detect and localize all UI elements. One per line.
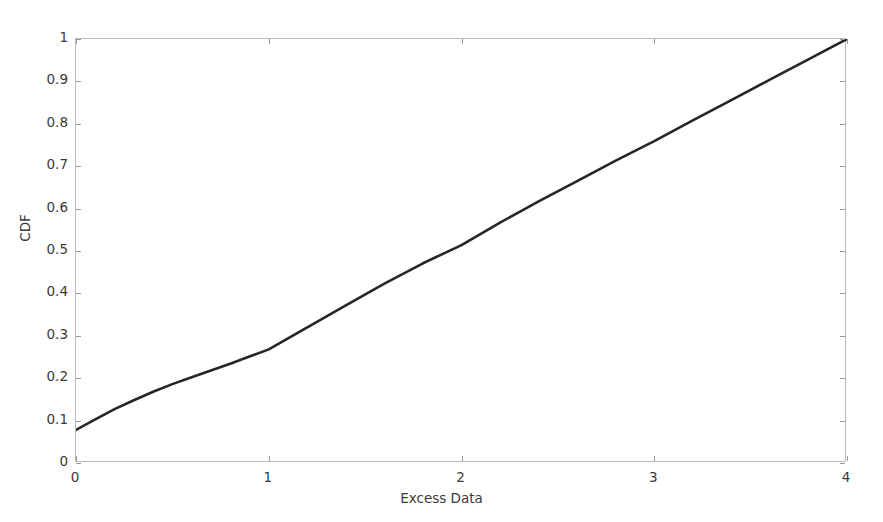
y-tick-mark [840,293,845,294]
x-tick-mark [847,456,848,461]
x-tick-mark [269,456,270,461]
y-tick-label: 0.9 [20,74,68,88]
y-tick-mark [840,336,845,337]
x-tick-mark [462,456,463,461]
x-tick-mark [847,39,848,44]
y-tick-mark [76,378,81,379]
cdf-curve-line [76,39,847,430]
plot-area [75,38,846,462]
y-tick-mark [76,336,81,337]
x-tick-label: 3 [649,471,658,485]
y-tick-mark [76,209,81,210]
cdf-line-chart [76,39,847,463]
y-tick-label: 0.4 [20,286,68,300]
y-tick-label: 1 [20,31,68,45]
y-tick-label: 0.7 [20,158,68,172]
x-axis-title: Excess Data [0,492,883,506]
x-tick-label: 4 [842,471,851,485]
y-tick-mark [76,293,81,294]
y-tick-label: 0.5 [20,243,68,257]
y-tick-mark [76,421,81,422]
x-tick-label: 0 [71,471,80,485]
x-tick-label: 1 [263,471,272,485]
x-tick-mark [462,39,463,44]
y-tick-mark [840,39,845,40]
y-tick-mark [76,124,81,125]
y-tick-mark [76,463,81,464]
x-tick-label: 2 [456,471,465,485]
x-tick-mark [269,39,270,44]
chart-figure: 00.10.20.30.40.50.60.70.80.91 01234 Exce… [0,0,883,522]
y-tick-mark [840,378,845,379]
y-tick-mark [840,81,845,82]
y-tick-mark [76,251,81,252]
y-tick-mark [840,463,845,464]
y-tick-mark [76,81,81,82]
y-tick-label: 0.3 [20,328,68,342]
y-tick-mark [76,166,81,167]
y-tick-mark [840,251,845,252]
y-tick-mark [840,421,845,422]
x-tick-mark [654,456,655,461]
y-axis-title: CDF [19,214,33,242]
y-tick-mark [840,209,845,210]
x-tick-mark [76,456,77,461]
y-tick-label: 0.6 [20,201,68,215]
y-tick-label: 0 [20,455,68,469]
x-tick-mark [76,39,77,44]
y-tick-mark [840,124,845,125]
y-tick-label: 0.2 [20,370,68,384]
y-tick-label: 0.1 [20,413,68,427]
x-tick-mark [654,39,655,44]
y-tick-label: 0.8 [20,116,68,130]
y-tick-mark [840,166,845,167]
